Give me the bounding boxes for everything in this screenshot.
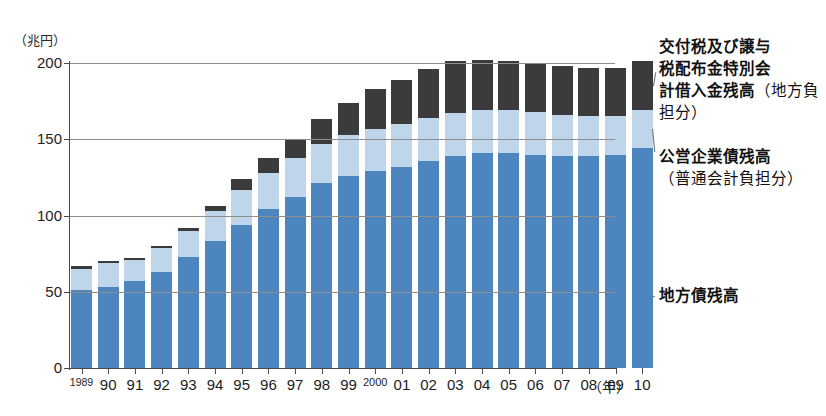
bar-segment-地方債残高-91 — [124, 281, 145, 368]
bar-segment-公営企業債残高普通会計負担分-92 — [151, 248, 172, 272]
bar-segment-地方債残高-96 — [258, 209, 279, 368]
bar-segment-地方債残高-02 — [418, 161, 439, 368]
x-tick-99 — [349, 368, 350, 374]
bar-segment-公営企業債残高普通会計負担分-09 — [605, 116, 626, 154]
x-tick-06 — [535, 368, 536, 374]
x-tick-96 — [268, 368, 269, 374]
bar-segment-公営企業債残高普通会計負担分-98 — [311, 144, 332, 184]
bar-segment-地方債残高-98 — [311, 183, 332, 368]
bar-segment-地方債残高-06 — [525, 155, 546, 369]
y-tick-100 — [64, 216, 70, 217]
bar-segment-交付税及び譲与税配布金特別会計借入金残高地方負担分-08 — [578, 68, 599, 117]
bar-segment-公営企業債残高普通会計負担分-93 — [178, 231, 199, 257]
x-axis-tick-label-10: 10 — [625, 376, 659, 393]
bar-segment-公営企業債残高普通会計負担分-03 — [445, 113, 466, 156]
plot-area — [70, 63, 615, 368]
bar-segment-公営企業債残高普通会計負担分-07 — [552, 115, 573, 156]
bar-segment-交付税及び譲与税配布金特別会計借入金残高地方負担分-91 — [124, 258, 145, 260]
y-axis-unit-label: （兆円） — [14, 30, 66, 49]
x-tick-1989 — [82, 368, 83, 374]
bar-segment-交付税及び譲与税配布金特別会計借入金残高地方負担分-06 — [525, 63, 546, 112]
bar-segment-交付税及び譲与税配布金特別会計借入金残高地方負担分-92 — [151, 246, 172, 248]
bar-segment-交付税及び譲与税配布金特別会計借入金残高地方負担分-04 — [472, 60, 493, 110]
y-axis-tick-label-100: 100 — [16, 207, 62, 224]
bar-segment-地方債残高-05 — [498, 153, 519, 368]
x-tick-93 — [188, 368, 189, 374]
x-axis-line — [69, 368, 616, 369]
y-tick-150 — [64, 139, 70, 140]
gridline-150 — [70, 139, 615, 140]
legend-label-chihosai: 地方債残高 — [659, 287, 739, 305]
bar-segment-地方債残高-95 — [231, 225, 252, 368]
y-axis-labels: 050100150200 — [14, 63, 62, 368]
x-tick-97 — [295, 368, 296, 374]
x-tick-09 — [616, 368, 617, 374]
bar-segment-地方債残高-97 — [285, 197, 306, 368]
bar-segment-交付税及び譲与税配布金特別会計借入金残高地方負担分-03 — [445, 61, 466, 113]
legend-item-shakkin: 交付税及び譲与 税配布金特別会 計借入金残高（地方負担分） — [659, 36, 826, 124]
bar-segment-地方債残高-99 — [338, 176, 359, 368]
gridline-200 — [70, 63, 615, 64]
bar-segment-交付税及び譲与税配布金特別会計借入金残高地方負担分-2000 — [365, 89, 386, 129]
x-tick-01 — [402, 368, 403, 374]
bar-segment-交付税及び譲与税配布金特別会計借入金残高地方負担分-10 — [632, 61, 653, 110]
bar-segment-公営企業債残高普通会計負担分-05 — [498, 110, 519, 153]
bar-segment-交付税及び譲与税配布金特別会計借入金残高地方負担分-02 — [418, 69, 439, 118]
bar-segment-公営企業債残高普通会計負担分-06 — [525, 112, 546, 155]
bar-segment-交付税及び譲与税配布金特別会計借入金残高地方負担分-94 — [205, 206, 226, 211]
bar-segment-交付税及び譲与税配布金特別会計借入金残高地方負担分-93 — [178, 228, 199, 231]
bar-segment-地方債残高-2000 — [365, 171, 386, 368]
chart-canvas: （兆円） 050100150200 1989909192939495969798… — [0, 0, 826, 416]
bar-segment-交付税及び譲与税配布金特別会計借入金残高地方負担分-95 — [231, 179, 252, 190]
x-tick-94 — [215, 368, 216, 374]
x-tick-91 — [135, 368, 136, 374]
bar-segment-地方債残高-93 — [178, 257, 199, 368]
bar-segment-公営企業債残高普通会計負担分-08 — [578, 116, 599, 156]
bar-segment-公営企業債残高普通会計負担分-99 — [338, 135, 359, 176]
x-axis-unit-label: （年） — [588, 376, 630, 396]
bar-segment-交付税及び譲与税配布金特別会計借入金残高地方負担分-1989 — [71, 266, 92, 269]
y-tick-0 — [64, 368, 70, 369]
gridline-100 — [70, 216, 615, 217]
legend-item-chihosai: 地方債残高 — [659, 285, 739, 307]
bar-segment-交付税及び譲与税配布金特別会計借入金残高地方負担分-07 — [552, 66, 573, 115]
bar-segment-交付税及び譲与税配布金特別会計借入金残高地方負担分-01 — [391, 80, 412, 124]
legend-label-kouei: 公営企業債残高 — [659, 148, 771, 166]
bar-segment-公営企業債残高普通会計負担分-97 — [285, 158, 306, 198]
bar-segment-公営企業債残高普通会計負担分-01 — [391, 124, 412, 167]
bar-segment-地方債残高-01 — [391, 167, 412, 368]
bar-segment-交付税及び譲与税配布金特別会計借入金残高地方負担分-97 — [285, 139, 306, 157]
leader-line-chihosai — [652, 296, 654, 297]
x-tick-90 — [108, 368, 109, 374]
bar-segment-地方債残高-10 — [632, 148, 653, 368]
x-tick-08 — [589, 368, 590, 374]
y-tick-50 — [64, 292, 70, 293]
legend-sub-kouei: （普通会計負担分） — [659, 170, 803, 188]
bar-segment-公営企業債残高普通会計負担分-1989 — [71, 269, 92, 290]
leader-line-shakkin — [653, 72, 656, 86]
x-tick-03 — [455, 368, 456, 374]
bar-segment-公営企業債残高普通会計負担分-10 — [632, 110, 653, 148]
bar-segment-地方債残高-04 — [472, 153, 493, 368]
x-tick-02 — [429, 368, 430, 374]
x-tick-98 — [322, 368, 323, 374]
bar-segment-公営企業債残高普通会計負担分-95 — [231, 190, 252, 225]
bar-segment-地方債残高-09 — [605, 155, 626, 369]
bar-segment-地方債残高-94 — [205, 241, 226, 368]
bar-segment-交付税及び譲与税配布金特別会計借入金残高地方負担分-90 — [98, 261, 119, 263]
bar-segment-公営企業債残高普通会計負担分-91 — [124, 260, 145, 281]
legend-item-kouei: 公営企業債残高 （普通会計負担分） — [659, 146, 803, 190]
bar-segment-地方債残高-92 — [151, 272, 172, 368]
y-axis-tick-label-0: 0 — [16, 359, 62, 376]
bar-segment-地方債残高-03 — [445, 156, 466, 368]
x-tick-92 — [162, 368, 163, 374]
gridline-50 — [70, 292, 615, 293]
bar-segment-交付税及び譲与税配布金特別会計借入金残高地方負担分-96 — [258, 158, 279, 173]
x-tick-95 — [242, 368, 243, 374]
y-tick-200 — [64, 63, 70, 64]
bar-segment-公営企業債残高普通会計負担分-2000 — [365, 129, 386, 172]
y-axis-tick-label-50: 50 — [16, 283, 62, 300]
bar-segment-地方債残高-1989 — [71, 290, 92, 368]
x-tick-10 — [642, 368, 643, 374]
bar-segment-公営企業債残高普通会計負担分-90 — [98, 263, 119, 287]
